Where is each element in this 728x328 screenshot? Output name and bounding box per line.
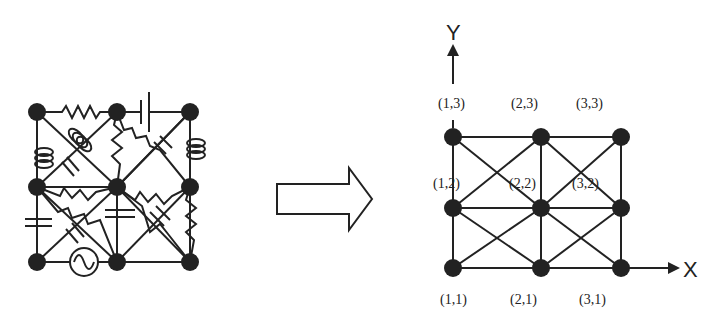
resistor-icon [37, 106, 117, 118]
x-axis-arrow-icon [668, 262, 680, 274]
node [28, 103, 46, 121]
capacitor-icon [66, 223, 84, 243]
node [108, 178, 126, 196]
node [612, 259, 630, 277]
node [612, 199, 630, 217]
capacitor-icon [25, 219, 52, 226]
inductor-icon [66, 126, 94, 154]
node-label: (1,3) [438, 96, 465, 112]
diagram-canvas: X Y (1,3) (2,3) (3,3) (1,2) (2,2) (3,2) … [0, 0, 728, 328]
node [612, 128, 630, 146]
x-axis-label: X [683, 257, 698, 282]
right-lattice [453, 55, 668, 268]
capacitor-icon [154, 136, 172, 154]
node [532, 259, 550, 277]
node-label: (2,1) [510, 292, 537, 308]
capacitor-icon [105, 210, 135, 217]
node [444, 259, 462, 277]
node [181, 178, 199, 196]
node-label: (3,1) [579, 292, 606, 308]
node-label: (3,3) [576, 96, 603, 112]
node [181, 103, 199, 121]
node-label: (1,1) [440, 292, 467, 308]
node-label: (2,3) [511, 96, 538, 112]
node [28, 253, 46, 271]
node-label: (2,2) [509, 176, 536, 192]
y-axis-arrow-icon [447, 44, 459, 56]
node-label: (1,2) [433, 176, 460, 192]
y-axis-label: Y [446, 20, 461, 45]
node [444, 128, 462, 146]
node [108, 103, 126, 121]
node [444, 199, 462, 217]
edge [117, 112, 190, 187]
node [108, 253, 126, 271]
node [28, 178, 46, 196]
node-label: (3,2) [572, 176, 599, 192]
ac-source-icon [70, 248, 98, 276]
right-arrow-icon [277, 168, 372, 230]
node [532, 199, 550, 217]
node [532, 128, 550, 146]
node [181, 253, 199, 271]
